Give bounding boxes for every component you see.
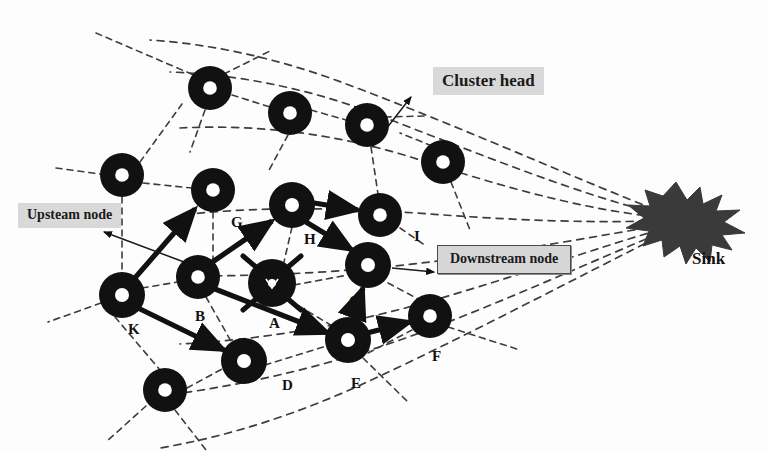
- sink-icon: [626, 182, 745, 264]
- arrow-E-to-F: [367, 322, 410, 333]
- node-label-B: B: [195, 308, 205, 325]
- sink-label: Sink: [692, 249, 725, 269]
- node-top-3[interactable]: [345, 103, 389, 147]
- node-label-I: I: [414, 228, 420, 245]
- diagram-canvas: G H I K B A C D E F Cluster head Upsteam…: [0, 0, 768, 451]
- node-C[interactable]: [345, 242, 391, 288]
- node-label-C: C: [349, 293, 360, 310]
- callout-upstream-node: Upsteam node: [18, 203, 121, 228]
- node-label-K: K: [128, 321, 140, 338]
- node-top-1[interactable]: [188, 66, 232, 110]
- callout-cluster-head: Cluster head: [433, 67, 544, 95]
- contour-lines: [150, 40, 673, 448]
- node-label-H: H: [304, 231, 316, 248]
- node-top-2[interactable]: [268, 91, 312, 135]
- node-A-cluster-head[interactable]: [243, 256, 301, 310]
- node-F[interactable]: [408, 294, 452, 338]
- node-label-G: G: [231, 214, 243, 231]
- node-left-1[interactable]: [100, 153, 144, 197]
- node-bot-1[interactable]: [143, 368, 187, 412]
- node-label-D: D: [282, 377, 293, 394]
- node-B[interactable]: [176, 255, 220, 299]
- node-G[interactable]: [191, 168, 235, 212]
- node-label-F: F: [432, 348, 441, 365]
- node-H[interactable]: [269, 182, 315, 228]
- callout-downstream-node: Downstream node: [437, 245, 571, 274]
- node-label-E: E: [351, 375, 361, 392]
- node-right-1[interactable]: [421, 140, 465, 184]
- node-I[interactable]: [358, 193, 402, 237]
- node-label-A: A: [269, 315, 280, 332]
- pointer-downstream: [392, 268, 434, 272]
- node-D[interactable]: [221, 338, 267, 384]
- node-E[interactable]: [325, 317, 371, 363]
- node-K[interactable]: [99, 272, 145, 318]
